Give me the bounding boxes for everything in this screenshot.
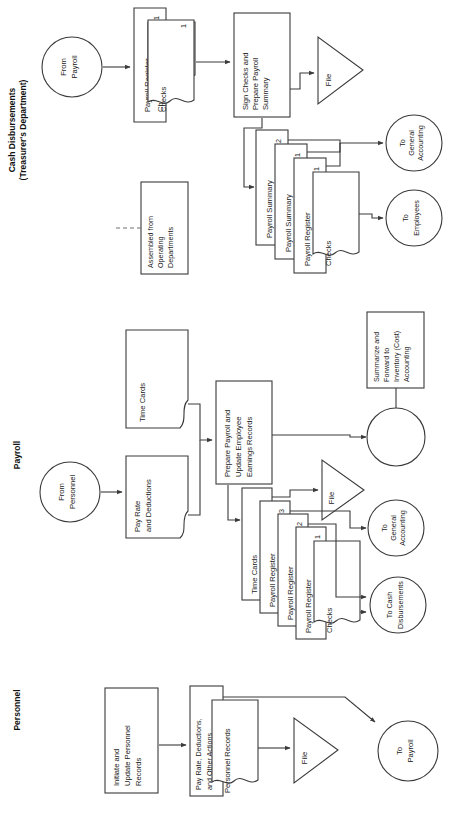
- cash-checks1-label: Checks: [324, 240, 333, 266]
- personnel-records-label: Personnel Records: [223, 728, 232, 793]
- payroll-tga-line3: Accounting: [398, 510, 407, 546]
- payroll-fp-line1: From: [57, 483, 66, 501]
- node-payroll-checks: Checks: [314, 541, 360, 633]
- cash-ps2-copy: 2: [274, 139, 283, 143]
- arrow-payrate-to-prepare: [188, 440, 200, 515]
- arrow-sign-to-file: [290, 73, 314, 89]
- personnel-initiate-line3: Records: [134, 758, 143, 786]
- node-cash-sign-process: Sign Checks and Prepare Payroll Summary: [234, 13, 290, 117]
- payroll-file-label: File: [327, 492, 336, 504]
- payroll-prepare-line1: Prepare Payroll and: [223, 410, 232, 477]
- cash-pr1-copy: 1: [312, 167, 321, 171]
- payroll-pr1-label: Payroll Register: [304, 579, 313, 633]
- section-label-cash-line1: Cash Disbursements: [7, 87, 17, 172]
- arrow-summary2-join: [307, 143, 340, 152]
- payroll-checks-label: Checks: [325, 607, 334, 633]
- cash-te-line2: Employees: [412, 200, 421, 236]
- payroll-prepare-line2: Update Employee: [234, 417, 243, 477]
- payroll-timecards-out-label: Time Cards: [250, 555, 259, 594]
- payroll-pr3-copy: 3: [277, 509, 286, 513]
- node-personnel-file: File: [294, 718, 338, 783]
- node-payroll-to-cash-disbursements: To Cash Disbursements: [370, 577, 426, 633]
- section-label-cash-disbursements: Cash Disbursements (Treasurer's Departme…: [7, 79, 28, 180]
- cash-from-payroll-line1: From: [59, 58, 68, 76]
- node-payroll-blank-connector: [367, 408, 425, 466]
- payroll-pr3-label: Payroll Register: [268, 553, 277, 607]
- cash-checks-shape: [148, 20, 194, 103]
- arrow-timecards-to-file: [272, 490, 318, 497]
- cash-sign-line3: Summary: [261, 77, 270, 110]
- node-cash-from-payroll: From Payroll: [42, 37, 102, 97]
- section-label-personnel: Personnel: [12, 689, 22, 730]
- payroll-summarize-line1: Summarize and: [372, 332, 381, 382]
- node-payroll-pay-rate: Pay Rate and Deductions: [126, 456, 188, 538]
- cash-payroll-register-copy: 1: [152, 16, 161, 20]
- payroll-summarize-line3: Inventory (Cost): [392, 331, 401, 382]
- arrow-prepare-to-stack: [228, 485, 240, 520]
- payroll-summarize-line4: Accounting: [402, 346, 411, 382]
- section-label-payroll-line1: Payroll: [12, 441, 22, 469]
- node-cash-to-employees: To Employees: [386, 190, 442, 246]
- section-label-personnel-line1: Personnel: [12, 689, 22, 730]
- arrow-checks-to-employees: [359, 214, 383, 218]
- node-payroll-time-cards-in: Time Cards: [126, 330, 188, 428]
- payroll-system-flowchart: Cash Disbursements (Treasurer's Departme…: [0, 0, 462, 823]
- personnel-initiate-line2: Update Personnel: [123, 725, 132, 786]
- node-payroll-prepare-process: Prepare Payroll and Update Employee Earn…: [216, 381, 272, 484]
- node-personnel-to-payroll: To Payroll: [378, 721, 438, 781]
- node-payroll-from-personnel: From Personnel: [40, 462, 100, 522]
- flowchart-canvas: Cash Disbursements (Treasurer's Departme…: [0, 0, 462, 823]
- cash-ps2-label: Payroll Summary: [265, 180, 274, 238]
- section-label-cash-line2: (Treasurer's Department): [18, 79, 28, 180]
- cash-ps1-copy: 1: [293, 153, 302, 157]
- cash-annot-line2: Operating: [156, 236, 165, 268]
- payroll-fp-line2: Personnel: [68, 475, 77, 510]
- cash-tga-line1: To: [398, 139, 407, 147]
- personnel-payrate-line1: Pay Rate, Deductions,: [194, 718, 203, 790]
- payroll-tcd-line2: Disbursements: [396, 581, 405, 629]
- cash-from-payroll-line2: Payroll: [70, 55, 79, 79]
- cash-checks-text: Checks: [159, 86, 168, 112]
- node-cash-to-general-accounting: To General Accounting: [386, 115, 442, 171]
- node-cash-checks-1: Checks: [313, 172, 359, 266]
- payroll-tga-line1: To: [380, 524, 389, 532]
- arrow-register-join: [326, 143, 340, 166]
- payroll-tga-line2: General: [389, 515, 398, 541]
- payroll-payrate-line2: and Deductions: [144, 479, 153, 532]
- payroll-pr1-copy: 1: [313, 535, 322, 539]
- node-payroll-summarize-process: Summarize and Forward to Inventory (Cost…: [367, 312, 424, 388]
- cash-tga-line3: Accounting: [416, 125, 425, 161]
- arrow-summary-to-general-accounting: [288, 140, 383, 143]
- cash-te-line1: To: [401, 214, 410, 222]
- cash-sign-line2: Prepare Payroll: [251, 57, 260, 110]
- personnel-tp-line2: Payroll: [406, 739, 415, 763]
- cash-annot-line3: Departments: [166, 226, 175, 268]
- cash-file-label: File: [324, 74, 333, 86]
- personnel-initiate-line1: Initiate and: [112, 749, 121, 786]
- cash-tga-line2: General: [407, 130, 416, 156]
- node-cash-annotation: Assembled from Operating Departments: [141, 182, 188, 274]
- arrow-timecards-to-prepare: [188, 404, 212, 440]
- node-personnel-records-doc: Personnel Records: [212, 700, 258, 793]
- payroll-timecards-in-label: Time Cards: [138, 383, 147, 422]
- section-label-payroll: Payroll: [12, 441, 22, 469]
- payroll-prepare-line3: Earnings Records: [245, 416, 254, 477]
- cash-sign-line1: Sign Checks and: [241, 53, 250, 110]
- payroll-summarize-line2: Forward to: [382, 348, 391, 382]
- payroll-payrate-line1: Pay Rate: [133, 501, 142, 532]
- node-payroll-to-general-accounting: To General Accounting: [368, 500, 424, 556]
- arrow-prepare-to-blank-connector: [272, 435, 366, 437]
- node-cash-file: File: [318, 37, 363, 104]
- cash-checks-copy-marker: 1: [179, 24, 188, 28]
- payroll-pr2-label: Payroll Register: [286, 566, 295, 620]
- node-personnel-initiate-process: Initiate and Update Personnel Records: [105, 688, 158, 793]
- personnel-file-label: File: [300, 752, 309, 764]
- cash-ps1-label: Payroll Summary: [284, 194, 293, 252]
- cash-pr1-label: Payroll Register: [303, 212, 312, 266]
- personnel-tp-line1: To: [395, 747, 404, 755]
- payroll-tcd-line1: To Cash: [385, 592, 394, 618]
- payroll-pr2-copy: 2: [295, 522, 304, 526]
- cash-annot-line1: Assembled from: [146, 216, 155, 268]
